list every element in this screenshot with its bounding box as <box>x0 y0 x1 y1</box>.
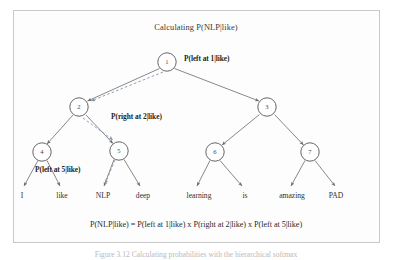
leaf-word-i: I <box>21 192 24 200</box>
node-label-2: 2 <box>77 104 80 111</box>
node-label-4: 4 <box>40 149 43 156</box>
figure-frame <box>13 10 380 243</box>
leaf-word-amazing: amazing <box>279 192 305 200</box>
figure-page: 1 2 3 4 5 6 7 Calculating P(NLP|like) P(… <box>0 0 396 260</box>
node-label-1: 1 <box>165 59 168 66</box>
node-label-3: 3 <box>265 104 268 111</box>
leaf-word-nlp: NLP <box>96 192 110 200</box>
leaf-word-pad: PAD <box>329 192 344 200</box>
leaf-word-is: is <box>242 192 247 200</box>
probability-formula: P(NLP|like) = P(left at 1|like) x P(righ… <box>90 221 302 229</box>
leaf-word-learning: learning <box>187 192 212 200</box>
prob-label-left-at-1: P(left at 1|like) <box>184 55 230 62</box>
leaf-word-like: like <box>56 192 67 200</box>
leaf-word-deep: deep <box>136 192 150 200</box>
node-label-7: 7 <box>308 149 311 156</box>
node-label-5: 5 <box>117 148 120 155</box>
prob-label-left-at-5: P(left at 5|like) <box>35 166 81 173</box>
figure-title: Calculating P(NLP|like) <box>154 24 237 32</box>
prob-label-right-at-2: P(right at 2|like) <box>111 113 162 120</box>
figure-caption: Figure 3.12 Calculating probabilities wi… <box>95 251 297 259</box>
node-label-6: 6 <box>213 149 216 156</box>
